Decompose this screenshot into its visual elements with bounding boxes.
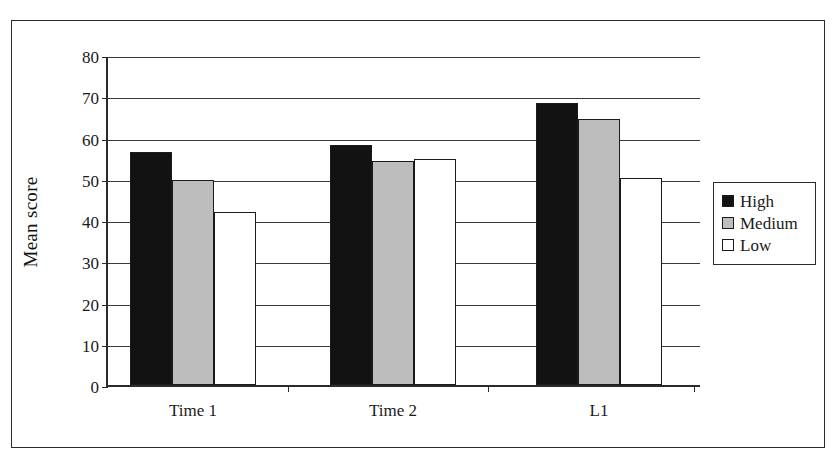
- x-tick: [488, 385, 489, 392]
- y-tick-0: [102, 387, 108, 388]
- y-tick-label: 70: [82, 90, 99, 107]
- legend-item-low: Low: [722, 234, 807, 256]
- bars-layer: [108, 57, 700, 385]
- bar-medium-l1: [578, 119, 620, 385]
- bar-high-time-1: [130, 152, 172, 385]
- legend-item-high: High: [722, 190, 807, 212]
- bar-medium-time-1: [172, 180, 214, 385]
- y-axis-title: Mean score: [18, 57, 44, 387]
- x-tick-label: Time 1: [169, 401, 217, 421]
- bar-low-l1: [620, 178, 662, 385]
- y-tick-label: 0: [91, 379, 100, 396]
- y-tick-label: 30: [82, 255, 99, 272]
- x-tick: [288, 385, 289, 392]
- bar-low-time-1: [214, 212, 256, 385]
- bar-high-time-2: [330, 145, 372, 385]
- y-tick-label: 50: [82, 172, 99, 189]
- y-tick-label: 10: [82, 337, 99, 354]
- figure: Mean score 01020304050607080 Time 1Time …: [0, 0, 840, 469]
- x-tick: [694, 385, 695, 392]
- legend-swatch-medium: [722, 217, 734, 229]
- y-tick-label: 60: [82, 131, 99, 148]
- bar-high-l1: [536, 103, 578, 385]
- legend-label: High: [740, 193, 774, 210]
- legend-swatch-high: [722, 195, 734, 207]
- bar-medium-time-2: [372, 161, 414, 385]
- bar-low-time-2: [414, 159, 456, 385]
- x-tick-label: Time 2: [369, 401, 417, 421]
- y-tick-label: 20: [82, 296, 99, 313]
- y-tick-label: 40: [82, 214, 99, 231]
- legend: HighMediumLow: [713, 182, 816, 265]
- x-tick-label: L1: [590, 401, 609, 421]
- legend-swatch-low: [722, 239, 734, 251]
- legend-label: Medium: [740, 215, 798, 232]
- legend-item-medium: Medium: [722, 212, 807, 234]
- y-tick-label: 80: [82, 49, 99, 66]
- legend-label: Low: [740, 237, 771, 254]
- plot-area: 01020304050607080 Time 1Time 2L1: [106, 57, 700, 387]
